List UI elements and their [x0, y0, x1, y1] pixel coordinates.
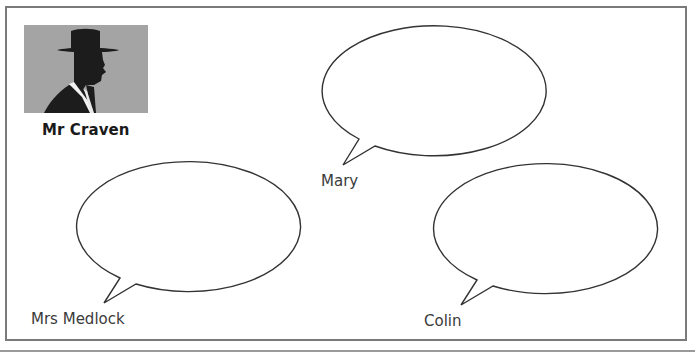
speech-bubble-colin-text-area[interactable] — [447, 180, 627, 270]
speaker-label-colin: Colin — [424, 312, 462, 330]
speech-bubble-mrs-medlock-text-area[interactable] — [90, 178, 270, 268]
speaker-label-mrs-medlock: Mrs Medlock — [31, 310, 125, 328]
speech-bubble-mary-text-area[interactable] — [330, 40, 510, 130]
speaker-label-mary: Mary — [321, 172, 358, 190]
